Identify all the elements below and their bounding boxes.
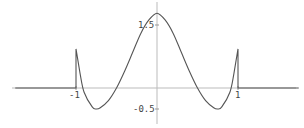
x-tick-label-neg1: -1	[69, 90, 80, 100]
plot: -1 1 1.5 -0.5	[0, 0, 304, 128]
y-tick-label-neg0-5: -0.5	[133, 104, 155, 114]
y-tick-label-1-5: 1.5	[138, 20, 154, 30]
x-tick-label-1: 1	[235, 90, 240, 100]
